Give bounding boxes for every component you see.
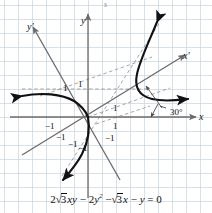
rotated-axes — [22, 27, 185, 180]
equation-minus-3: − — [131, 193, 137, 205]
tick-y-prime-positive: 1 — [63, 84, 68, 93]
rotation-angle-label: 30° — [170, 108, 183, 117]
x-axis-label: x — [199, 112, 203, 122]
tick-x-prime-negative: −1 — [56, 133, 66, 142]
equation-equals-zero: = 0 — [147, 193, 161, 205]
conic-figure: s y x y′ x′ 30° 1 1 1 1 −1 −1 −1 −1 −1 2… — [0, 0, 212, 213]
conic-curve — [22, 22, 188, 180]
tick-x-negative: −1 — [45, 122, 55, 131]
tick-x-positive: 1 — [113, 104, 118, 113]
y-axis-label: y — [81, 16, 85, 26]
y-prime-axis-label: y′ — [27, 22, 34, 32]
term-y-linear: y — [140, 193, 145, 205]
term-y-squared-exponent: 2 — [99, 192, 103, 200]
x-prime-axis-label: x′ — [183, 51, 190, 61]
tick-x-prime-positive: 1 — [113, 122, 118, 131]
tick-y-positive: 1 — [78, 80, 83, 89]
tick-extra-negative: −1 — [78, 144, 88, 153]
tick-y-prime-negative: −1 — [68, 140, 78, 149]
term-xy: xy — [67, 193, 77, 205]
x-prime-axis — [22, 55, 185, 155]
equation-caption: 2√3xy − 2y2 −√3x − y = 0 — [0, 192, 212, 205]
tick-y-negative: −1 — [105, 134, 115, 143]
leader-to-angle — [151, 104, 158, 117]
top-crop-artifact: s — [104, 0, 107, 7]
equation-minus-1: − 2 — [80, 193, 94, 205]
term-x: x — [123, 193, 128, 205]
